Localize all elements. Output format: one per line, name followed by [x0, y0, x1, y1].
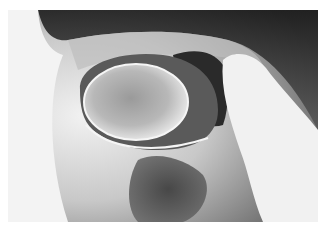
photograph: [8, 10, 318, 222]
photo-frame: [8, 10, 318, 222]
